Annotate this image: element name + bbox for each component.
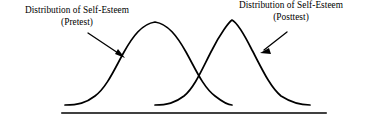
self-esteem-distribution-figure: Distribution of Self-Esteem (Pretest) Di… bbox=[0, 0, 375, 124]
pretest-label-line1: Distribution of Self-Esteem bbox=[25, 5, 129, 15]
pretest-label-line2: (Pretest) bbox=[18, 17, 136, 29]
pretest-distribution-label: Distribution of Self-Esteem (Pretest) bbox=[18, 5, 136, 28]
posttest-label-line1: Distribution of Self-Esteem bbox=[239, 0, 343, 10]
arrow-to-posttest-curve bbox=[260, 32, 287, 54]
posttest-distribution-label: Distribution of Self-Esteem (Posttest) bbox=[230, 0, 352, 23]
posttest-label-line2: (Posttest) bbox=[230, 12, 352, 24]
arrow-to-pretest-curve bbox=[88, 33, 125, 58]
